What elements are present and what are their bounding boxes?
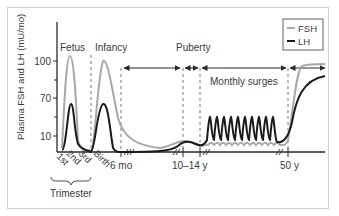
- y-axis-label: Plasma FSH and LH (mU/mo): [15, 14, 26, 140]
- phase-dividers: [91, 55, 288, 152]
- y-tick-label-10: 10: [40, 131, 52, 142]
- label-puberty: Puberty: [176, 42, 210, 53]
- x-label-6mo: 6 mo: [110, 160, 133, 171]
- label-fetus: Fetus: [60, 42, 85, 53]
- x-label-trimester: Trimester: [50, 188, 93, 199]
- lh-curve: [62, 76, 325, 152]
- x-label-50y: 50 y: [280, 160, 299, 171]
- y-tick-label-100: 100: [34, 56, 51, 67]
- label-monthly-surges: Monthly surges: [210, 76, 278, 87]
- fsh-curve: [62, 56, 325, 150]
- x-label-10-14y: 10–14 y: [172, 160, 208, 171]
- legend-lh-label: LH: [298, 36, 310, 47]
- y-tick-label-70: 70: [40, 93, 52, 104]
- legend: FSH LH: [283, 19, 323, 50]
- label-infancy: Infancy: [95, 42, 127, 53]
- trimester-brace: [51, 177, 91, 185]
- legend-fsh-label: FSH: [298, 23, 317, 34]
- chart-svg: Plasma FSH and LH (mU/mo) 100 70 10: [0, 0, 339, 216]
